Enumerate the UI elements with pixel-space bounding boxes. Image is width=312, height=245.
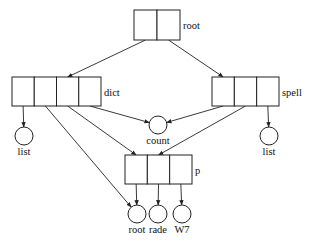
circle-node-icon [173, 205, 191, 223]
box-label-p: p [195, 165, 200, 176]
edge-arrow-p-cell0-to-root_leaf [136, 184, 137, 205]
node-label-root_leaf: root [129, 224, 146, 235]
box-dict-cell-1 [34, 77, 56, 106]
node-label-list_right: list [263, 146, 276, 157]
box-spell-cell-2 [257, 77, 279, 106]
pointer-diagram: rootdictspellp countlistlistrootradeW7 [0, 0, 312, 245]
node-label-rade: rade [149, 224, 167, 235]
edge-arrow-dict-cell2-to-p-cell0 [68, 106, 137, 155]
box-spell: spell [212, 77, 302, 106]
node-list_right: list [260, 127, 278, 157]
edge-arrow-root-cell1-to-spell-cell0 [169, 40, 224, 77]
box-root-cell-1 [157, 10, 180, 40]
box-root: root [134, 10, 200, 40]
edge-arrow-p-cell2-to-w7 [181, 184, 182, 205]
edge-arrow-dict-cell3-to-count [90, 106, 149, 123]
node-label-w7: W7 [174, 224, 189, 235]
node-w7: W7 [173, 205, 191, 235]
node-list_left: list [15, 127, 33, 157]
edge-arrow-spell-cell1-to-p-cell1 [159, 106, 246, 155]
edge-arrow-root-cell0-to-dict-cell2 [68, 40, 146, 77]
node-count: count [146, 116, 169, 146]
node-rade: rade [149, 205, 167, 235]
box-p-cell-0 [125, 155, 147, 184]
boxes: rootdictspellp [12, 10, 302, 184]
box-p: p [125, 155, 200, 184]
circle-node-icon [149, 116, 167, 134]
box-label-root: root [183, 20, 200, 31]
box-spell-cell-0 [212, 77, 234, 106]
edge-arrow-spell-cell0-to-count [167, 106, 224, 122]
box-label-dict: dict [104, 87, 120, 98]
box-p-cell-2 [170, 155, 192, 184]
circle-node-icon [149, 205, 167, 223]
node-root_leaf: root [128, 205, 146, 235]
box-spell-cell-1 [234, 77, 256, 106]
box-p-cell-1 [147, 155, 169, 184]
box-dict: dict [12, 77, 120, 106]
box-root-cell-0 [134, 10, 157, 40]
edge-arrow-spell-cell2-to-list_right [268, 106, 269, 127]
circle-node-icon [128, 205, 146, 223]
box-dict-cell-0 [12, 77, 34, 106]
edge-arrow-dict-cell0-to-list_left [23, 106, 24, 127]
box-label-spell: spell [282, 87, 302, 98]
box-dict-cell-2 [57, 77, 79, 106]
circle-node-icon [260, 127, 278, 145]
node-label-list_left: list [18, 146, 31, 157]
box-dict-cell-3 [79, 77, 101, 106]
circle-node-icon [15, 127, 33, 145]
node-label-count: count [146, 135, 169, 146]
